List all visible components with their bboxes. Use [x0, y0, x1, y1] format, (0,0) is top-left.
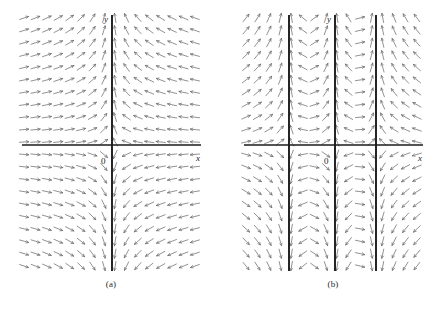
- origin-label-b: 0: [324, 156, 329, 166]
- origin-label-a: 0: [101, 156, 106, 166]
- direction-field-b: [222, 0, 444, 309]
- x-axis-label-b: x: [418, 153, 422, 163]
- x-axis-label-a: x: [196, 153, 200, 163]
- caption-b: (b): [222, 279, 444, 289]
- figure-container: y x 0 (a) y x 0 (b): [0, 0, 444, 309]
- y-axis-label-a: y: [104, 14, 108, 24]
- y-axis-label-b: y: [327, 14, 331, 24]
- caption-a: (a): [0, 279, 222, 289]
- direction-field-a: [0, 0, 222, 309]
- panel-b: y x 0 (b): [222, 0, 444, 309]
- panel-a: y x 0 (a): [0, 0, 222, 309]
